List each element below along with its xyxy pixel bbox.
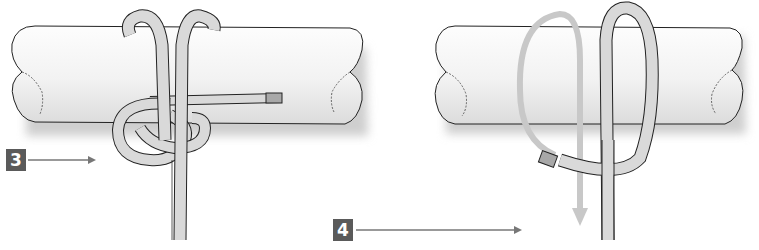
- step-4-badge: 4: [333, 219, 353, 241]
- step-4-illustration: [435, 8, 746, 240]
- motion-arrowhead-icon: [572, 208, 588, 226]
- step-3-illustration: [12, 16, 368, 240]
- rope-end: [266, 93, 282, 103]
- step-4-arrowhead-icon: [514, 226, 522, 234]
- pole: [435, 26, 743, 124]
- step-3-arrowhead-icon: [88, 156, 96, 164]
- knot-diagram: [0, 0, 759, 250]
- step-3-badge: 3: [6, 149, 26, 171]
